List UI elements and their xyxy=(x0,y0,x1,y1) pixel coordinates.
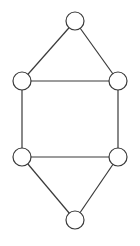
node-top xyxy=(66,12,84,30)
graph-diagram xyxy=(0,0,140,246)
edge-lower-right-bottom xyxy=(75,157,118,220)
node-lower-left xyxy=(13,148,31,166)
node-upper-left xyxy=(13,72,31,90)
node-lower-right xyxy=(109,148,127,166)
edge-top-upper-right xyxy=(75,21,118,81)
edges-layer xyxy=(22,21,118,220)
edge-top-upper-left xyxy=(22,21,75,81)
node-bottom xyxy=(66,211,84,229)
edge-lower-left-bottom xyxy=(22,157,75,220)
nodes-layer xyxy=(13,12,127,229)
node-upper-right xyxy=(109,72,127,90)
